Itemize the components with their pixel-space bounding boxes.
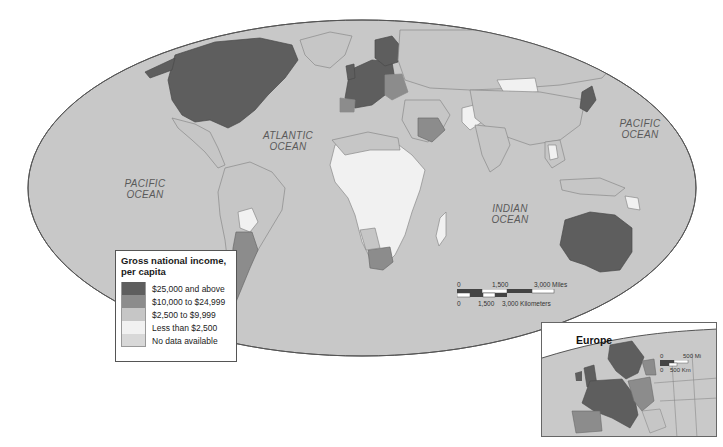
uk bbox=[346, 64, 355, 80]
legend-item: Less than $2,500 bbox=[121, 321, 231, 334]
scale-bar-graphic bbox=[457, 289, 557, 299]
ocean-label-indian: INDIAN OCEAN bbox=[485, 203, 535, 225]
ocean-label-pacific-west: PACIFIC OCEAN bbox=[120, 178, 170, 200]
legend-item: $25,000 and above bbox=[121, 282, 231, 295]
europe-inset-map bbox=[542, 323, 717, 437]
legend-swatch bbox=[121, 282, 146, 295]
iberia bbox=[340, 98, 355, 112]
legend-item: $10,000 to $24,999 bbox=[121, 295, 231, 308]
legend: Gross national income, per capita $25,00… bbox=[115, 250, 237, 362]
legend-swatch bbox=[121, 321, 146, 334]
europe-inset: Europe 0 500 Mi 0 500 Km bbox=[541, 322, 717, 437]
legend-swatch bbox=[121, 295, 146, 308]
legend-swatch bbox=[121, 334, 146, 347]
legend-title: Gross national income, per capita bbox=[121, 255, 231, 277]
legend-item: $2,500 to $9,999 bbox=[121, 308, 231, 321]
scale-bar: 0 1,500 3,000 Miles 0 1,500 3,000 Kilome… bbox=[452, 281, 567, 311]
ocean-label-atlantic: ATLANTIC OCEAN bbox=[258, 130, 318, 152]
inset-scale-bar: 0 500 Mi 0 500 Km bbox=[660, 353, 715, 373]
legend-swatch bbox=[121, 308, 146, 321]
legend-item: No data available bbox=[121, 334, 231, 347]
ocean-label-pacific-east: PACIFIC OCEAN bbox=[615, 118, 665, 140]
inset-title: Europe bbox=[576, 334, 612, 346]
